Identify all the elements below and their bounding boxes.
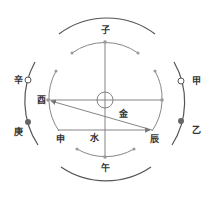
dot-top-left [71, 52, 74, 55]
label-wu: 午 [101, 162, 110, 173]
dot-wu [103, 155, 107, 159]
dot-right-upper [154, 70, 157, 73]
label-geng: 庚 [14, 126, 23, 137]
arrow-metal [51, 101, 152, 130]
label-jia: 甲 [192, 76, 201, 86]
dot-you [46, 98, 50, 102]
outer-arc-right [172, 62, 185, 145]
label-water: 水 [90, 132, 100, 143]
bagua-diagram: 子 午 酉 申 辰 辛 庚 甲 乙 金 水 [0, 0, 211, 198]
label-yi: 乙 [192, 125, 201, 135]
label-chen: 辰 [150, 134, 160, 144]
dot-left-upper [55, 70, 58, 73]
label-metal: 金 [118, 108, 129, 119]
label-zi: 子 [101, 25, 110, 35]
label-shen: 申 [56, 133, 65, 144]
marker-geng-filled [25, 119, 31, 125]
inner-arc-left [49, 71, 59, 131]
dot-bottom-right [133, 148, 136, 151]
label-you: 酉 [37, 95, 46, 105]
marker-xin-hollow [25, 77, 31, 83]
marker-yi-filled [178, 118, 184, 124]
dot-zi [103, 40, 107, 44]
label-xin: 辛 [14, 74, 23, 85]
marker-jia-hollow [178, 78, 184, 84]
dot-right-mid [160, 98, 164, 102]
dot-top-right [137, 52, 140, 55]
dot-bottom-left [76, 148, 79, 151]
